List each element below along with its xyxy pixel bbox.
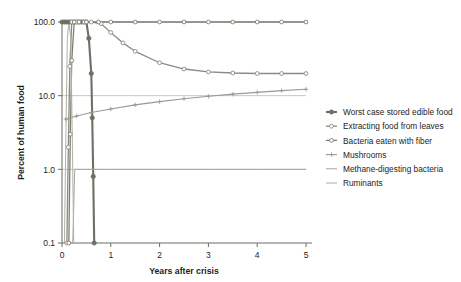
series-marker [97, 20, 101, 24]
y-tick-label: 10.0 [38, 91, 55, 101]
series-marker [133, 49, 137, 53]
series-marker [207, 70, 211, 74]
series-marker [89, 71, 93, 75]
series-marker [207, 20, 211, 24]
series-lines [62, 22, 306, 243]
series-marker [109, 20, 113, 24]
legend-label-0: Worst case stored edible food [343, 107, 453, 117]
series-marker [68, 132, 72, 136]
series-marker [70, 59, 74, 63]
series-marker [280, 20, 284, 24]
legend-marker-3 [329, 152, 333, 156]
series-marker [231, 20, 235, 24]
series-marker [87, 36, 91, 40]
legend-label-4: Methane-digesting bacteria [343, 164, 443, 174]
chart-legend: Worst case stored edible foodExtracting … [326, 107, 453, 188]
y-tick-label: 100.0 [34, 17, 56, 27]
series-marker [255, 72, 259, 76]
x-tick-label: 2 [157, 250, 162, 260]
gridlines [62, 22, 306, 169]
series-marker [85, 20, 89, 24]
y-axis-title: Percent of human food [16, 85, 26, 180]
axes [62, 21, 312, 243]
series-marker [206, 94, 210, 98]
legend-marker-2 [330, 139, 334, 143]
series-marker [157, 99, 161, 103]
series-marker [304, 20, 308, 24]
legend-label-1: Extracting food from leaves [343, 121, 444, 131]
chart-container: 012345 100.010.01.00.1 Years after crisi… [0, 0, 461, 282]
series-marker [77, 20, 81, 24]
legend-label-2: Bacteria eaten with fiber [343, 136, 432, 146]
x-axis-title: Years after crisis [149, 266, 219, 276]
series-marker [66, 145, 70, 149]
series-marker [182, 96, 186, 100]
legend-label-5: Ruminants [343, 178, 383, 188]
series-marker [121, 41, 125, 45]
series-marker [255, 90, 259, 94]
x-tick-label: 5 [304, 250, 309, 260]
x-axis-ticks: 012345 [60, 243, 309, 260]
y-tick-label: 1.0 [43, 165, 55, 175]
series-marker [109, 31, 113, 35]
x-tick-label: 0 [60, 250, 65, 260]
legend-label-3: Mushrooms [343, 150, 386, 160]
y-tick-label: 0.1 [43, 238, 55, 248]
series-marker [280, 72, 284, 76]
series-marker [91, 174, 95, 178]
series-marker [255, 20, 259, 24]
series-marker [89, 20, 93, 24]
series-marker [64, 117, 68, 121]
legend-marker-0 [329, 110, 333, 114]
series-marker [90, 116, 94, 120]
series-marker [231, 71, 235, 75]
series-marker [92, 241, 96, 245]
series-line-1 [67, 22, 306, 243]
series-line-2 [69, 22, 306, 243]
legend-marker-1 [330, 124, 334, 128]
series-marker [182, 67, 186, 71]
series-marker [158, 20, 162, 24]
series-marker [109, 107, 113, 111]
series-marker [67, 241, 71, 245]
series-marker [68, 64, 72, 68]
log-line-chart: 012345 100.010.01.00.1 Years after crisi… [0, 0, 461, 282]
series-marker [133, 103, 137, 107]
series-marker [279, 88, 283, 92]
x-tick-label: 3 [206, 250, 211, 260]
series-marker [182, 20, 186, 24]
series-marker [304, 72, 308, 76]
x-tick-label: 4 [255, 250, 260, 260]
series-marker [72, 20, 76, 24]
y-axis-ticks: 100.010.01.00.1 [34, 17, 62, 248]
series-marker [304, 87, 308, 91]
series-marker [158, 61, 162, 65]
series-line-3 [66, 89, 306, 119]
series-markers [60, 20, 308, 245]
series-marker [74, 114, 78, 118]
series-line-4 [73, 169, 306, 243]
series-marker [133, 20, 137, 24]
x-tick-label: 1 [108, 250, 113, 260]
